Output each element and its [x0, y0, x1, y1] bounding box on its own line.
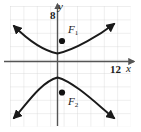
focus-point-f2: [59, 89, 65, 95]
focus-label-f2-subscript: 2: [75, 101, 79, 109]
focus-label-f1: F1: [68, 24, 78, 37]
focus-label-f1-subscript: 1: [75, 29, 79, 37]
focus-label-f2-letter: F: [68, 95, 75, 107]
x-axis-tick-label: 12: [110, 64, 121, 75]
hyperbola-figure: y 8 12 x F1 F2: [0, 0, 141, 132]
y-axis-tick-label: 8: [50, 10, 56, 21]
focus-point-f1: [59, 38, 65, 44]
x-axis-label: x: [126, 63, 131, 74]
focus-label-f1-letter: F: [68, 23, 75, 35]
focus-label-f2: F2: [68, 96, 78, 109]
y-axis-label: y: [58, 1, 63, 12]
